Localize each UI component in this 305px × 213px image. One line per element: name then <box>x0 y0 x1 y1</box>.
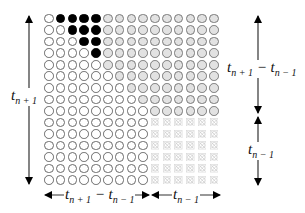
arrows-layer <box>0 0 305 213</box>
label-t-n-plus-1-left: tn + 1 <box>10 88 38 106</box>
label-t-n-minus-1-bottom: tn − 1 <box>172 187 200 205</box>
label-diff-bottom: tn + 1 − tn − 1 <box>64 187 135 205</box>
label-diff-right: tn + 1 − tn − 1 <box>226 60 297 78</box>
label-t-n-minus-1-right: tn − 1 <box>247 142 275 160</box>
